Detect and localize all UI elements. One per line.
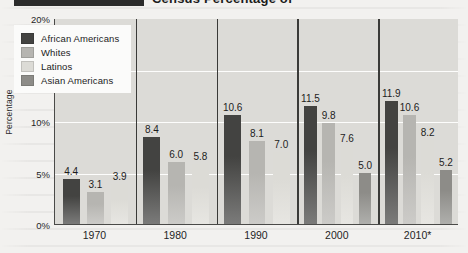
bar: 7.6	[341, 146, 354, 224]
y-axis-tick: 20%	[31, 14, 50, 25]
bar-value-label: 7.6	[340, 134, 354, 144]
x-axis-label: 1990	[244, 229, 267, 241]
legend-item: African Americans	[21, 31, 119, 45]
legend-item: Asian Americans	[21, 73, 119, 87]
bar-value-label: 10.6	[400, 103, 419, 113]
bar-value-label: 11.5	[301, 94, 320, 104]
bar-value-label: 5.8	[194, 152, 208, 162]
bar-group: 8.46.05.8	[136, 19, 217, 224]
legend-label: Whites	[41, 47, 71, 58]
x-axis-label: 1970	[83, 229, 106, 241]
y-axis-tick: 0%	[36, 220, 50, 231]
bar: 11.5	[304, 106, 317, 224]
bar: 10.6	[403, 115, 416, 224]
bar-value-label: 8.1	[250, 129, 264, 139]
legend-swatch-icon	[21, 33, 34, 44]
chart-legend: African AmericansWhitesLatinosAsian Amer…	[14, 25, 131, 93]
bar-value-label: 10.6	[223, 103, 242, 113]
bar-value-label: 5.2	[439, 158, 453, 168]
bar: 5.2	[440, 170, 453, 224]
bar: 11.9	[385, 101, 398, 224]
bar-group: 10.68.17.0	[217, 19, 298, 224]
legend-swatch-icon	[21, 75, 34, 86]
group-separator	[378, 19, 380, 224]
figure-header: Census Percentage of	[0, 0, 468, 9]
bar: 6.0	[168, 162, 185, 224]
bar-value-label: 3.9	[113, 172, 127, 182]
group-separator	[217, 19, 219, 224]
bar-value-label: 9.8	[322, 111, 336, 121]
bar-group: 11.910.68.25.2	[378, 19, 459, 224]
y-axis-tick: 5%	[36, 168, 50, 179]
bar-value-label: 5.0	[358, 161, 372, 171]
bar: 10.6	[224, 115, 241, 224]
bar-group: 11.59.87.65.0	[297, 19, 378, 224]
bar-value-label: 8.2	[421, 128, 435, 138]
legend-label: African Americans	[41, 33, 119, 44]
bar-value-label: 6.0	[169, 150, 183, 160]
bar-value-label: 3.1	[88, 180, 102, 190]
y-axis-tick: 10%	[31, 117, 50, 128]
bar: 9.8	[322, 123, 335, 224]
bar: 7.0	[273, 152, 290, 224]
legend-item: Latinos	[21, 59, 119, 73]
group-separator	[297, 19, 299, 224]
legend-swatch-icon	[21, 61, 34, 72]
x-axis-labels: 19701980199020002010*	[54, 229, 458, 249]
bar-value-label: 7.0	[274, 140, 288, 150]
bar: 5.0	[359, 173, 372, 225]
bar-chart: Percentage 0%5%10%15%20% 4.43.13.98.46.0…	[0, 11, 468, 253]
bar-value-label: 8.4	[145, 125, 159, 135]
figure-title: Census Percentage of	[152, 0, 293, 6]
legend-label: Asian Americans	[41, 75, 113, 86]
legend-swatch-icon	[21, 47, 34, 58]
bar: 4.4	[63, 179, 80, 224]
x-axis-label: 2000	[325, 229, 348, 241]
bar-value-label: 11.9	[382, 89, 401, 99]
bar: 3.1	[87, 192, 104, 224]
legend-item: Whites	[21, 45, 119, 59]
legend-label: Latinos	[41, 61, 72, 72]
bar: 8.1	[249, 141, 266, 224]
bar: 8.4	[143, 137, 160, 224]
bar: 8.2	[421, 140, 434, 224]
bar-value-label: 4.4	[64, 167, 78, 177]
bar: 3.9	[111, 184, 128, 224]
group-separator	[136, 19, 138, 224]
x-axis-label: 2010*	[404, 229, 431, 241]
x-axis-label: 1980	[164, 229, 187, 241]
bar: 5.8	[192, 164, 209, 224]
header-rule	[14, 0, 144, 6]
